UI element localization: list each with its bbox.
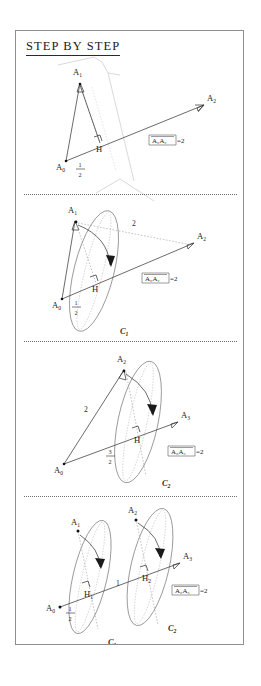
svg-text:=2: =2 bbox=[200, 587, 208, 594]
point-label-h: H bbox=[134, 435, 140, 445]
svg-text:A₀A₂: A₀A₂ bbox=[152, 137, 167, 144]
panel-separator-3 bbox=[24, 496, 237, 498]
point-label-a1: A1 bbox=[73, 67, 82, 78]
svg-text:A₀A₂: A₀A₂ bbox=[145, 275, 160, 282]
point-label-h: H bbox=[96, 144, 102, 154]
panel-2-diagram: 2 A0 A1 A2 H 1 2 bbox=[16, 199, 244, 339]
conic-c2 bbox=[118, 504, 182, 629]
point-label-h1: H1 bbox=[84, 589, 93, 600]
conic-label-c1: C1 bbox=[108, 638, 117, 645]
point-label-a2: A2 bbox=[128, 505, 137, 516]
panel-separator-2 bbox=[24, 341, 237, 343]
point-label-h2: H2 bbox=[142, 573, 151, 584]
svg-text:3: 3 bbox=[108, 448, 111, 455]
vertex-dot-a0 bbox=[65, 160, 68, 163]
svg-text:2: 2 bbox=[84, 405, 88, 414]
vertex-dot-a0 bbox=[63, 463, 66, 466]
svg-text:2: 2 bbox=[68, 615, 71, 622]
svg-text:2: 2 bbox=[78, 171, 81, 178]
svg-text:2: 2 bbox=[132, 219, 136, 228]
vertex-dot-a2 bbox=[135, 519, 138, 522]
conic-c2 bbox=[106, 357, 171, 487]
vertex-dot-a1 bbox=[75, 221, 78, 224]
svg-text:1: 1 bbox=[78, 161, 81, 168]
conic-c1 bbox=[60, 206, 129, 336]
svg-text:A₀A₃: A₀A₃ bbox=[175, 587, 190, 594]
panel-3-diagram: 2 A0 A2 A3 H 3 2 bbox=[16, 346, 244, 491]
axis-a0-a2 bbox=[66, 105, 204, 161]
perpendicular-foot-h bbox=[80, 85, 102, 143]
axis-a0-a2 bbox=[62, 243, 194, 299]
equation-a0a3: A₀A₃ =2 bbox=[172, 585, 208, 595]
point-label-a2: A2 bbox=[207, 93, 216, 104]
vertex-dot-a0 bbox=[61, 298, 64, 301]
dotted-a1-h bbox=[76, 223, 96, 283]
panel-4-diagram: A0 A1 A2 A3 H1 H2 1 2 1 A₀A₃ =2 C2 C1 bbox=[16, 501, 244, 645]
svg-text:2: 2 bbox=[108, 458, 111, 465]
chord-a1-a2: 2 bbox=[78, 219, 192, 245]
panel-separator-1 bbox=[24, 194, 237, 196]
point-label-a0: A0 bbox=[54, 465, 63, 476]
vertex-dot-a0 bbox=[59, 606, 62, 609]
equation-a0a2: A₀A₂ =2 bbox=[142, 273, 178, 283]
svg-text:=2: =2 bbox=[170, 275, 178, 282]
axis-a0-a3 bbox=[60, 563, 180, 607]
point-label-a0: A0 bbox=[46, 603, 55, 614]
svg-text:1: 1 bbox=[68, 605, 71, 612]
equation-a0a3: A₀A₃ =2 bbox=[168, 446, 204, 456]
point-label-a3: A3 bbox=[181, 410, 190, 421]
point-label-a2: A2 bbox=[197, 231, 206, 242]
point-label-a1: A1 bbox=[68, 205, 77, 216]
point-label-a1: A1 bbox=[71, 517, 80, 528]
perpendicular-foot-h bbox=[90, 275, 98, 281]
equation-a0a2: A₀A₂ =2 bbox=[149, 135, 185, 145]
vertex-dot-a2 bbox=[123, 370, 126, 373]
measure-half: 1 2 bbox=[66, 605, 75, 622]
point-label-a0: A0 bbox=[52, 300, 61, 311]
point-label-a0: A0 bbox=[56, 162, 65, 173]
measure-half: 1 2 bbox=[76, 161, 85, 178]
svg-text:A₀A₃: A₀A₃ bbox=[171, 448, 186, 455]
point-label-a3: A3 bbox=[183, 551, 192, 562]
figure-frame: STEP BY STEP bbox=[15, 30, 244, 645]
svg-text:2: 2 bbox=[74, 309, 77, 316]
measure-one: 1 bbox=[116, 579, 120, 588]
perpendicular-foot-h1 bbox=[82, 581, 90, 587]
segment-a0-a1 bbox=[66, 83, 84, 161]
panel-step-4: A0 A1 A2 A3 H1 H2 1 2 1 A₀A₃ =2 C2 C1 bbox=[16, 501, 244, 645]
point-label-h: H bbox=[92, 284, 98, 294]
perpendicular-foot-h bbox=[132, 426, 140, 432]
conic-label-c2: C2 bbox=[162, 479, 171, 489]
dotted-major-axis bbox=[126, 372, 146, 476]
panel-step-2: 2 A0 A1 A2 H 1 2 bbox=[16, 199, 244, 339]
vertex-dot-a1 bbox=[77, 530, 80, 533]
panel-step-3: 2 A0 A2 A3 H 3 2 bbox=[16, 346, 244, 491]
panel-step-1: A0 A1 A2 H 1 2 A₀A₂ =2 bbox=[16, 53, 244, 203]
panel-1-diagram: A0 A1 A2 H 1 2 A₀A₂ =2 bbox=[16, 53, 244, 203]
rotation-arrow-right bbox=[138, 523, 165, 559]
rotation-arrow bbox=[78, 225, 115, 267]
svg-text:=2: =2 bbox=[177, 137, 185, 144]
measure-three-halves: 3 2 bbox=[106, 448, 115, 465]
measure-half: 1 2 bbox=[72, 299, 81, 316]
segment-a0-a2: 2 bbox=[64, 370, 126, 464]
svg-text:=2: =2 bbox=[196, 448, 204, 455]
point-label-a2: A2 bbox=[117, 354, 126, 365]
conic-label-c2: C2 bbox=[168, 624, 177, 634]
conic-label-c1: C1 bbox=[120, 327, 129, 337]
svg-text:1: 1 bbox=[74, 299, 77, 306]
vertex-dot-a1 bbox=[79, 83, 82, 86]
axis-a0-a3 bbox=[64, 422, 178, 464]
